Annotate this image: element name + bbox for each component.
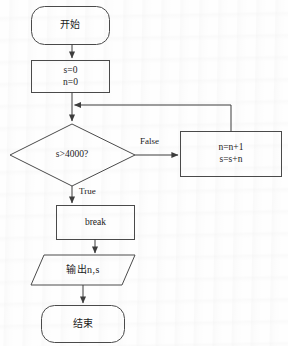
flowchart-shapes-and-connectors — [0, 0, 288, 346]
node-start-shape — [32, 7, 110, 45]
node-init-shape — [32, 61, 110, 93]
flowchart-diagram: 开始 s=0 n=0 s>4000? n=n+1 s=s+n break 输出n… — [0, 0, 288, 346]
connector-update-to-init-feedback — [75, 105, 232, 132]
node-break-shape — [57, 206, 135, 240]
edge-label-false: False — [140, 136, 159, 146]
edge-label-true: True — [79, 186, 96, 196]
node-end-shape — [42, 306, 125, 343]
node-update-shape — [181, 132, 282, 177]
node-output-shape — [31, 255, 135, 285]
node-decision-shape — [10, 124, 135, 186]
